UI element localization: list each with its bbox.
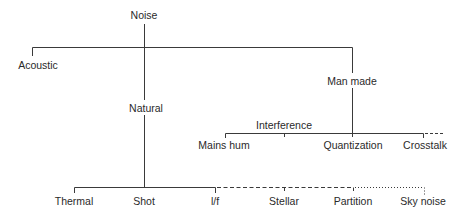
node-shot: Shot	[132, 195, 156, 207]
node-partition: Partition	[333, 195, 374, 207]
node-one-over-f: l/f	[210, 195, 220, 207]
node-quantization: Quantization	[323, 139, 384, 151]
node-stellar: Stellar	[268, 195, 300, 207]
node-natural: Natural	[128, 102, 164, 114]
node-man-made: Man made	[326, 75, 378, 87]
node-sky-noise: Sky noise	[399, 195, 447, 207]
node-mains-hum: Mains hum	[197, 139, 250, 151]
node-thermal: Thermal	[54, 195, 95, 207]
noise-tree-lines	[0, 0, 462, 221]
node-interference: Interference	[255, 119, 313, 131]
node-noise: Noise	[130, 9, 159, 21]
node-crosstalk: Crosstalk	[402, 139, 448, 151]
node-acoustic: Acoustic	[17, 59, 59, 71]
